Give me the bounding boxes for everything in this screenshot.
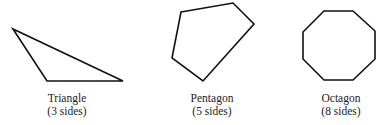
- pentagon-shape: [172, 3, 254, 81]
- pentagon-name: Pentagon: [162, 92, 262, 105]
- octagon-shape: [303, 11, 375, 80]
- triangle-label: Triangle (3 sides): [17, 92, 117, 118]
- octagon-name: Octagon: [291, 92, 383, 105]
- triangle-shape: [13, 29, 123, 81]
- octagon-label: Octagon (8 sides): [291, 92, 383, 118]
- pentagon-label: Pentagon (5 sides): [162, 92, 262, 118]
- pentagon-sides: (5 sides): [162, 105, 262, 118]
- triangle-name: Triangle: [17, 92, 117, 105]
- triangle-sides: (3 sides): [17, 105, 117, 118]
- octagon-sides: (8 sides): [291, 105, 383, 118]
